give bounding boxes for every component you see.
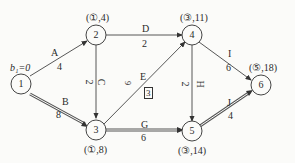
- node-3-label: 3: [86, 125, 106, 135]
- edge-e-duration: 3: [144, 87, 153, 99]
- edge-i-name: I: [228, 49, 231, 59]
- misc-mark: 9: [125, 78, 129, 88]
- node-2-annotation: (①,4): [86, 13, 109, 23]
- edge-e: [103, 42, 185, 125]
- edge-d-name: D: [142, 24, 149, 34]
- node-4-annotation: (③,11): [180, 13, 208, 23]
- node-2-label: 2: [86, 30, 106, 40]
- edge-b-duration: 8: [56, 110, 61, 120]
- edge-c-duration: 2: [86, 77, 91, 87]
- edge-b-name: B: [62, 97, 69, 107]
- edge-i: [199, 42, 251, 80]
- node-6-annotation: (⑤,18): [249, 63, 277, 73]
- node-4-label: 4: [182, 30, 202, 40]
- edge-h-duration: 2: [182, 79, 187, 89]
- node-1-label: 1: [11, 79, 31, 89]
- edge-h-name: H: [196, 79, 203, 89]
- edge-c-name: C: [98, 77, 105, 87]
- start-time-label: b₁=0: [10, 63, 30, 73]
- node-5-label: 5: [182, 126, 202, 136]
- edge-j-duration: 4: [228, 111, 233, 121]
- edge-g-name: G: [141, 120, 148, 130]
- edge-a-duration: 4: [57, 62, 62, 72]
- edge-g-duration: 6: [141, 133, 146, 143]
- node-3-annotation: (①,8): [84, 145, 107, 155]
- node-5-annotation: (③,14): [178, 146, 206, 156]
- edge-i-duration: 6: [226, 63, 231, 73]
- edge-e-name: E: [140, 72, 146, 82]
- edge-d-duration: 2: [142, 39, 147, 49]
- edge-a-name: A: [51, 48, 58, 58]
- edge-j-name: J: [227, 98, 231, 108]
- node-6-label: 6: [251, 80, 271, 90]
